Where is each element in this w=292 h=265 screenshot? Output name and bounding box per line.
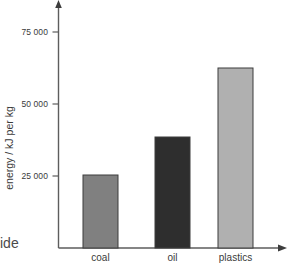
chart-canvas: 75 000 50 000 25 000 energy / kJ per kg …: [0, 0, 292, 265]
y-tick-label-25000: 25 000: [21, 171, 48, 181]
x-category-label-coal: coal: [91, 252, 109, 263]
x-category-label-plastics: plastics: [219, 252, 252, 263]
y-axis-arrow-icon: [55, 0, 62, 8]
x-axis-arrow-icon: [278, 244, 287, 251]
cropped-margin-text: ide: [0, 235, 19, 251]
x-category-label-oil: oil: [167, 252, 177, 263]
y-tick-label-75000: 75 000: [21, 27, 48, 37]
bar-plastics: [218, 68, 253, 248]
bar-coal: [83, 175, 118, 248]
bar-oil: [155, 137, 190, 248]
y-tick-label-50000: 50 000: [21, 99, 48, 109]
bar-chart-figure: 75 000 50 000 25 000 energy / kJ per kg …: [0, 0, 292, 265]
y-axis-title: energy / kJ per kg: [3, 106, 15, 190]
